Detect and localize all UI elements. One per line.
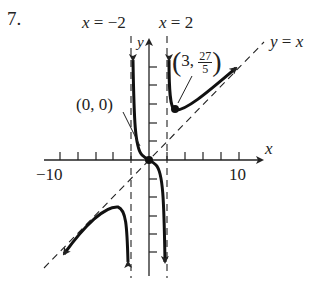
asymptote-right-label: x = 2 [159,14,193,31]
slant-asymptote-label: y = x [270,33,303,50]
minimum-leader-line [178,76,192,103]
x-tick-label-neg10: −10 [36,166,63,183]
minimum-point-label: (3, 275) [172,48,222,76]
origin-point-label: (0, 0) [76,96,113,113]
y-axis-label: y [137,35,144,50]
origin-leader-line [123,112,140,146]
x-axis-label: x [265,140,273,157]
x-tick-label-10: 10 [229,166,246,183]
point-origin [145,156,153,164]
point-minimum [171,105,179,113]
asymptote-left-label: x = −2 [82,14,126,31]
